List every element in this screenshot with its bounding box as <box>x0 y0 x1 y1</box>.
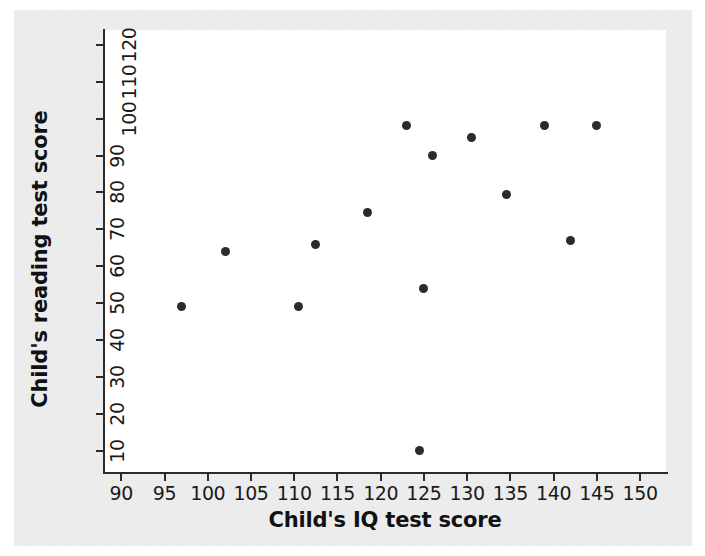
y-tick-label-40: 40 <box>106 340 128 363</box>
x-tick-label-100: 100 <box>190 482 225 504</box>
y-tick-label-90: 90 <box>106 156 128 179</box>
x-tick-105 <box>250 474 252 481</box>
x-tick-125 <box>423 474 425 481</box>
y-tick-label-20: 20 <box>106 414 128 437</box>
x-tick-140 <box>553 474 555 481</box>
y-tick-label-80: 80 <box>106 192 128 215</box>
y-tick-label-70: 70 <box>106 229 128 252</box>
y-tick-30 <box>96 376 103 378</box>
plot-canvas <box>104 30 666 473</box>
y-axis-line <box>103 29 105 474</box>
data-point <box>502 190 511 199</box>
x-tick-95 <box>164 474 166 481</box>
x-tick-label-90: 90 <box>110 482 133 504</box>
y-tick-20 <box>96 413 103 415</box>
x-tick-label-125: 125 <box>406 482 441 504</box>
x-tick-label-150: 150 <box>623 482 658 504</box>
scatter-plot-figure: 9095100105110115120125130135140145150 10… <box>0 0 705 556</box>
data-point <box>221 247 230 256</box>
x-axis-title: Child's IQ test score <box>104 508 666 532</box>
y-tick-50 <box>96 302 103 304</box>
y-tick-label-10: 10 <box>106 451 128 474</box>
y-tick-90 <box>96 155 103 157</box>
data-point <box>467 133 476 142</box>
x-tick-label-145: 145 <box>579 482 614 504</box>
x-tick-115 <box>336 474 338 481</box>
y-tick-label-50: 50 <box>106 303 128 326</box>
y-tick-120 <box>96 44 103 46</box>
x-tick-label-115: 115 <box>320 482 355 504</box>
x-tick-150 <box>639 474 641 481</box>
y-tick-110 <box>96 81 103 83</box>
x-axis-line <box>103 472 668 474</box>
x-tick-90 <box>120 474 122 481</box>
x-tick-label-135: 135 <box>493 482 528 504</box>
data-point <box>311 240 320 249</box>
y-tick-60 <box>96 265 103 267</box>
y-tick-label-60: 60 <box>106 266 128 289</box>
y-tick-label-30: 30 <box>106 377 128 400</box>
y-axis-title: Child's reading test score <box>28 39 52 479</box>
x-tick-130 <box>466 474 468 481</box>
y-tick-80 <box>96 191 103 193</box>
y-tick-70 <box>96 228 103 230</box>
x-tick-label-120: 120 <box>363 482 398 504</box>
x-tick-label-110: 110 <box>277 482 312 504</box>
x-tick-135 <box>509 474 511 481</box>
y-tick-label-110: 110 <box>118 82 140 117</box>
y-tick-40 <box>96 339 103 341</box>
x-tick-120 <box>380 474 382 481</box>
x-tick-100 <box>207 474 209 481</box>
y-tick-label-100: 100 <box>118 119 140 154</box>
x-tick-145 <box>596 474 598 481</box>
x-tick-label-95: 95 <box>153 482 176 504</box>
x-tick-label-140: 140 <box>536 482 571 504</box>
y-tick-10 <box>96 450 103 452</box>
data-point <box>428 151 437 160</box>
x-tick-label-130: 130 <box>450 482 485 504</box>
x-tick-110 <box>293 474 295 481</box>
y-tick-100 <box>96 118 103 120</box>
y-tick-label-120: 120 <box>118 45 140 80</box>
x-tick-label-105: 105 <box>233 482 268 504</box>
